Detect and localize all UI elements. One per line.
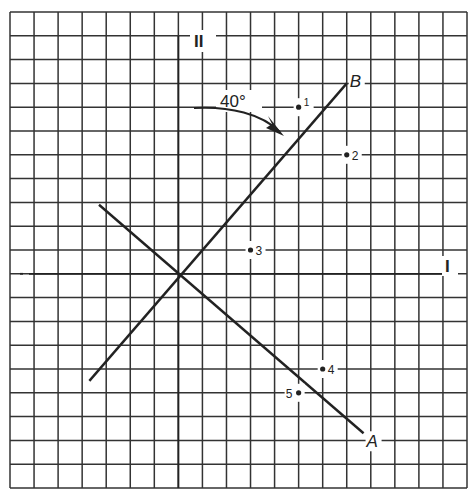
line-a [99, 205, 364, 433]
point-4-label: 4 [328, 363, 335, 377]
point-3-dot [248, 247, 253, 252]
point-4-dot [320, 366, 325, 371]
coordinate-diagram: I II A B 40° 12345 [0, 0, 474, 501]
point-1-label: 1 [304, 97, 310, 108]
line-b-label: B [350, 72, 361, 91]
point-5-label: 5 [286, 387, 293, 401]
diagram-canvas: I II A B 40° 12345 [0, 0, 474, 501]
grid [10, 12, 467, 488]
lines: A B [89, 71, 381, 451]
line-b [89, 83, 346, 381]
point-2-label: 2 [352, 149, 359, 163]
point-2-dot [344, 152, 349, 157]
axis-ii-label: II [194, 32, 203, 51]
point-1-dot [296, 105, 301, 110]
point-3-label: 3 [256, 244, 263, 258]
line-a-label: A [366, 432, 378, 451]
angle-annotation: 40° [194, 90, 284, 136]
axis-i-label: I [445, 257, 450, 276]
point-5-dot [296, 390, 301, 395]
